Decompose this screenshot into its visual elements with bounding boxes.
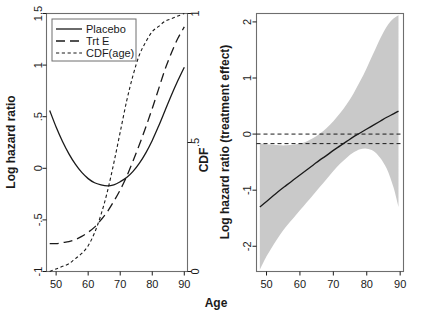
x-tick-label: 90: [394, 278, 406, 290]
x-tick-label: 80: [146, 278, 158, 290]
y2-tick-label: .5: [189, 138, 201, 147]
chart-panel-left: -1-.50.511.5 0.51 5060708090 Log hazard …: [0, 0, 216, 323]
x-tick-label: 60: [294, 278, 306, 290]
svg-text:CDF: CDF: [197, 148, 211, 173]
left-x-axis: 5060708090: [50, 272, 190, 290]
y-tick-label: 2: [241, 19, 253, 25]
y-tick-label: -.5: [32, 213, 44, 226]
legend-label: Placebo: [86, 23, 126, 35]
svg-text:Log hazard ratio (treatment ef: Log hazard ratio (treatment effect): [218, 45, 232, 240]
right-y-axis-title: Log hazard ratio (treatment effect): [218, 45, 232, 240]
right-panel-svg: -2-1012 5060708090 Log hazard ratio (tre…: [216, 0, 432, 323]
y-tick-label: 1: [241, 75, 253, 81]
figure-container: -1-.50.511.5 0.51 5060708090 Log hazard …: [0, 0, 432, 323]
y-tick-label: .5: [32, 112, 44, 121]
y-tick-label: -1: [241, 185, 253, 195]
y-tick-label: -1: [32, 267, 44, 277]
x-tick-label: 60: [82, 278, 94, 290]
left-y2-axis-cdf: 0.51: [188, 10, 202, 274]
x-tick-label: 80: [361, 278, 373, 290]
shared-x-axis-label: Age: [0, 296, 432, 310]
left-y-axis: -1-.50.511.5: [32, 6, 46, 277]
x-tick-label: 50: [50, 278, 62, 290]
svg-text:Log hazard ratio: Log hazard ratio: [4, 95, 18, 188]
series-placebo: [50, 67, 185, 186]
x-tick-label: 70: [114, 278, 126, 290]
x-tick-label: 90: [178, 278, 190, 290]
legend-label: Trt E: [86, 35, 109, 47]
right-y-axis: -2-1012: [241, 19, 256, 251]
legend: PlaceboTrt ECDF(age): [52, 19, 136, 61]
right-x-axis: 5060708090: [260, 272, 406, 290]
y2-tick-label: 0: [189, 268, 201, 274]
chart-panel-right: -2-1012 5060708090 Log hazard ratio (tre…: [216, 0, 432, 323]
y-tick-label: -2: [241, 241, 253, 251]
y2-tick-label: 1: [189, 10, 201, 16]
y-tick-label: 0: [241, 131, 253, 137]
y-tick-label: 1: [32, 62, 44, 68]
legend-label: CDF(age): [86, 47, 134, 59]
confidence-band-group: [260, 15, 399, 270]
x-tick-label: 50: [260, 278, 272, 290]
left-y2-axis-title: CDF: [197, 148, 211, 173]
left-y-axis-title: Log hazard ratio: [4, 95, 18, 188]
confidence-band: [260, 15, 399, 270]
y-tick-label: 0: [32, 165, 44, 171]
y-tick-label: 1.5: [32, 6, 44, 21]
x-tick-label: 70: [327, 278, 339, 290]
left-panel-svg: -1-.50.511.5 0.51 5060708090 Log hazard …: [0, 0, 216, 323]
